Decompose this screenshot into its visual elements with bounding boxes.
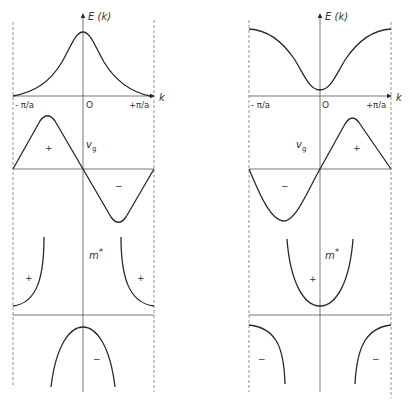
right-vg-label: vg bbox=[296, 139, 306, 153]
left-tick-pos-pi-a: +π/a bbox=[129, 100, 149, 110]
left-k-axis-label: k bbox=[159, 92, 166, 103]
band-structure-diagram: E (k) k - π/a O +π/a + vg − + + m* − E (… bbox=[0, 0, 410, 407]
left-mstar-curve-left bbox=[13, 237, 44, 306]
right-panel: E (k) k - π/a O +π/a vg + − m* + − − bbox=[249, 11, 403, 398]
left-vg-sign-positive: + bbox=[45, 143, 53, 153]
right-tick-pos-pi-a: +π/a bbox=[366, 100, 386, 110]
left-energy-axis-label: E (k) bbox=[88, 11, 111, 22]
left-energy-curve bbox=[13, 32, 150, 96]
right-tick-neg-pi-a: - π/a bbox=[251, 100, 270, 110]
right-tick-origin: O bbox=[322, 100, 329, 110]
right-mstar-curve-bottom-left bbox=[249, 325, 285, 384]
right-energy-axis-label: E (k) bbox=[325, 11, 348, 22]
right-mstar-label: m* bbox=[325, 247, 340, 261]
right-k-axis-label: k bbox=[396, 92, 403, 103]
right-mstar-sign-center: + bbox=[309, 274, 317, 284]
left-vg-label: vg bbox=[86, 139, 96, 153]
left-panel: E (k) k - π/a O +π/a + vg − + + m* − bbox=[13, 11, 166, 392]
left-mstar-sign-bottom: − bbox=[93, 354, 101, 364]
right-vg-sign-negative: − bbox=[281, 181, 289, 191]
left-mstar-sign-right: + bbox=[137, 273, 145, 283]
right-mstar-sign-bottom-left: − bbox=[258, 354, 266, 364]
left-mstar-sign-left: + bbox=[25, 273, 33, 283]
left-mstar-label: m* bbox=[89, 247, 104, 261]
right-mstar-sign-bottom-right: − bbox=[372, 354, 380, 364]
left-tick-origin: O bbox=[86, 100, 93, 110]
left-vg-sign-negative: − bbox=[115, 181, 123, 191]
left-mstar-curve-right bbox=[121, 237, 154, 306]
right-vg-sign-positive: + bbox=[353, 143, 361, 153]
left-tick-neg-pi-a: - π/a bbox=[15, 100, 34, 110]
